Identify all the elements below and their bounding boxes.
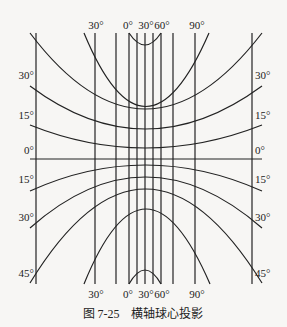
parallel-curves bbox=[30, 33, 262, 284]
graticule: 30°0°30°60°90°30°0°30°60°90°30°15°0°15°3… bbox=[0, 0, 287, 327]
right-latitude-label: 30° bbox=[255, 211, 270, 223]
top-longitude-label: 30° bbox=[138, 19, 153, 31]
parallel-curve bbox=[30, 165, 262, 191]
right-latitude-label: 30° bbox=[255, 69, 270, 81]
bottom-longitude-label: 60° bbox=[154, 288, 169, 300]
right-latitude-label: 15° bbox=[255, 173, 270, 185]
left-latitude-label: 30° bbox=[19, 69, 34, 81]
top-longitude-label: 0° bbox=[123, 19, 133, 31]
right-latitude-label: 15° bbox=[255, 109, 270, 121]
right-latitude-label: 45° bbox=[255, 267, 270, 279]
parallel-curve bbox=[84, 33, 209, 107]
bottom-longitude-label: 0° bbox=[123, 288, 133, 300]
transverse-gnomonic-projection-figure: 30°0°30°60°90°30°0°30°60°90°30°15°0°15°3… bbox=[0, 0, 287, 327]
bottom-longitude-label: 30° bbox=[138, 288, 153, 300]
parallel-curve bbox=[30, 86, 262, 129]
left-latitude-label: 15° bbox=[19, 109, 34, 121]
bottom-longitude-label: 30° bbox=[88, 288, 103, 300]
bottom-longitude-label: 90° bbox=[189, 288, 204, 300]
top-longitude-label: 60° bbox=[154, 19, 169, 31]
left-latitude-label: 30° bbox=[19, 211, 34, 223]
parallel-curve bbox=[84, 209, 210, 284]
parallel-curve bbox=[30, 177, 262, 228]
left-latitude-label: 0° bbox=[24, 144, 34, 156]
parallel-curve bbox=[30, 189, 262, 283]
top-longitude-label: 90° bbox=[189, 19, 204, 31]
left-latitude-label: 15° bbox=[19, 173, 34, 185]
right-latitude-label: 0° bbox=[255, 144, 265, 156]
top-longitude-label: 30° bbox=[88, 19, 103, 31]
left-latitude-label: 45° bbox=[19, 267, 34, 279]
figure-caption: 图 7-25 横轴球心投影 bbox=[83, 306, 204, 321]
